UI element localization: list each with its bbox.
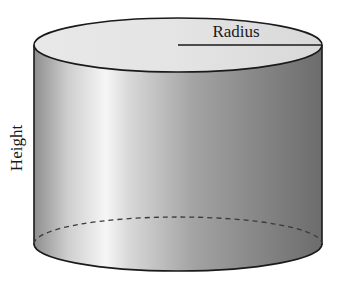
cylinder-side (34, 45, 322, 271)
cylinder-diagram: Radius Height (0, 0, 339, 290)
radius-label: Radius (212, 22, 259, 41)
height-label: Height (7, 125, 26, 172)
